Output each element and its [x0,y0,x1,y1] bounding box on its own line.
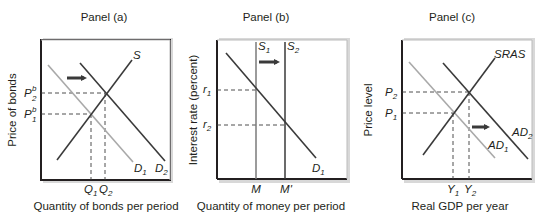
panel-a: Panel (a) S D1 D2 P b 2 P b 1 Q1 Q2 Qua [6,11,179,212]
svg-text:b: b [32,105,37,114]
tick-y1: Y1 [447,183,459,198]
svg-text:2: 2 [31,94,37,103]
tick-m-prime: M' [280,183,293,195]
panel-c-title: Panel (c) [429,11,475,23]
svg-text:P: P [24,87,32,99]
tick-p1: P b 1 [24,105,37,124]
tick-q1: Q1 [84,183,97,198]
panel-b-title: Panel (b) [243,11,290,23]
svg-text:1: 1 [32,115,36,124]
label-sras: SRAS [494,48,526,60]
label-s: S [133,49,141,61]
panel-b-x-label: Quantity of money per period [197,200,345,212]
panel-c-y-label: Price level [362,83,374,136]
svg-text:b: b [32,84,37,93]
tick-r2: r2 [203,118,212,133]
tick-p2: P b 2 [24,84,37,103]
panel-c: Panel (c) SRAS AD1 AD2 P2 P1 Y1 Y2 Real … [362,11,535,212]
panel-a-y-label: Price of bonds [6,73,18,147]
tick-r1: r1 [203,83,211,98]
panel-b: Panel (b) S1 S2 D1 r1 r2 M M' Quantity o… [187,11,350,212]
svg-text:P: P [24,108,32,120]
tick-m: M [251,183,261,195]
panel-a-title: Panel (a) [81,11,128,23]
panel-c-x-label: Real GDP per year [412,200,509,212]
tick-y2: Y2 [464,183,477,198]
tick-p1: P1 [385,107,397,122]
figure: Panel (a) S D1 D2 P b 2 P b 1 Q1 Q2 Qua [0,0,543,223]
panel-a-x-label: Quantity of bonds per period [33,200,178,212]
tick-q2: Q2 [99,183,113,198]
panel-b-y-label: Interest rate (percent) [187,55,199,166]
tick-p2: P2 [385,86,398,101]
